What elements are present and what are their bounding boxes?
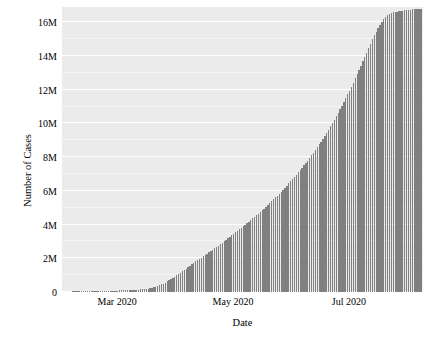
- x-axis-tick-label: Jul 2020: [332, 296, 366, 307]
- chart-figure: Number of Cases 02M4M6M8M10M12M14M16M Ma…: [0, 0, 434, 341]
- x-axis-tick-label: May 2020: [213, 296, 254, 307]
- x-axis-tick-labels: Mar 2020May 2020Jul 2020: [0, 0, 434, 341]
- x-axis-tick-label: Mar 2020: [98, 296, 137, 307]
- x-axis-title: Date: [62, 317, 423, 328]
